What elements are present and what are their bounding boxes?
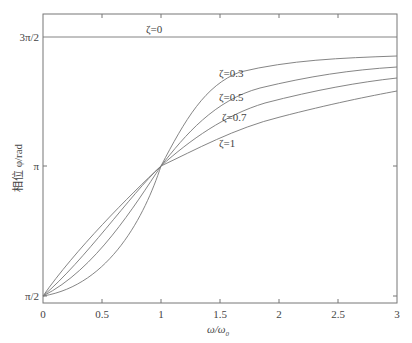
x-tick-label: 1 [158, 308, 164, 320]
curve-label-zeta-0.7: ζ=0.7 [222, 111, 247, 124]
y-tick-label: π/2 [25, 290, 39, 302]
curve-zeta-1 [43, 91, 397, 296]
curve-label-zeta-0: ζ=0 [146, 23, 163, 36]
y-tick-label: 3π/2 [19, 31, 39, 43]
plot-frame [43, 14, 397, 303]
curve-label-zeta-0.3: ζ=0.3 [219, 67, 244, 80]
x-tick-label: 0 [40, 308, 46, 320]
x-ticks [102, 14, 338, 303]
y-axis-label: 相位 φ/rad [11, 143, 24, 192]
phase-response-chart: 0 0.5 1 1.5 2 2.5 3 3π/2 π π/2 ω/ω0 相位 φ… [0, 0, 412, 343]
x-tick-label: 3 [394, 308, 400, 320]
x-tick-label: 2 [276, 308, 282, 320]
x-tick-label: 2.5 [331, 308, 345, 320]
x-tick-label: 1.5 [213, 308, 227, 320]
x-axis-label: ω/ω0 [207, 323, 230, 338]
curve-zeta-0.7 [43, 78, 397, 296]
x-tick-label: 0.5 [95, 308, 109, 320]
y-tick-label: π [33, 160, 39, 172]
curve-label-zeta-0.5: ζ=0.5 [219, 91, 244, 104]
curve-label-zeta-1: ζ=1 [219, 137, 235, 150]
